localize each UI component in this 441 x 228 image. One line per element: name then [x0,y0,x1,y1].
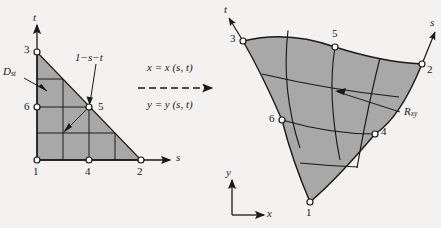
region-label-rxy: Rxy [404,106,417,118]
domain-label-dst-base: D [3,65,11,77]
xy-node-3[interactable] [240,38,246,44]
s-axis-label-right: s [430,17,434,28]
figure-svg [0,0,441,228]
domain-label-dst: Dst [3,66,16,78]
y-axis-label-right: y [226,167,231,178]
st-node-4[interactable] [86,157,92,163]
st-node-3[interactable] [34,49,40,55]
xy-node-label-6: 6 [269,113,275,124]
st-node-label-2: 2 [137,166,143,177]
region-label-rxy-base: R [404,105,411,117]
t-axis-label-left: t [33,12,36,23]
st-node-label-1: 1 [33,166,39,177]
st-node-label-6: 6 [24,101,30,112]
xy-node-5[interactable] [332,44,338,50]
mapping-equation-y: y = y (s, t) [147,99,193,110]
xy-node-label-4: 4 [381,126,387,137]
st-node-2[interactable] [138,157,144,163]
s-axis-label-left: s [176,152,180,163]
left-domain-group [24,25,170,163]
xy-node-6[interactable] [279,117,285,123]
st-node-5[interactable] [86,104,92,110]
xy-node-1[interactable] [307,199,313,205]
xy-node-2[interactable] [419,61,425,67]
xy-node-label-3: 3 [230,33,236,44]
st-node-1[interactable] [34,157,40,163]
figure-container: t s Dst 1−s−t 1 2 3 4 5 6 x = x (s, t) y… [0,0,441,228]
st-node-label-4: 4 [85,166,91,177]
one-minus-s-t-label: 1−s−t [75,52,103,63]
one-minus-s-t-leader [90,64,96,103]
region-label-rxy-sub: xy [411,109,418,118]
st-node-6[interactable] [34,104,40,110]
x-axis-label-right: x [267,208,272,219]
st-node-label-3: 3 [24,44,30,55]
xy-node-label-2: 2 [427,64,433,75]
s-axis-right [422,32,435,64]
xy-node-label-1: 1 [306,207,312,218]
xy-node-label-5: 5 [332,28,338,39]
xy-axis-indicator [232,180,264,215]
t-axis-label-right: t [224,4,227,15]
mapping-equation-x: x = x (s, t) [147,62,193,73]
domain-label-dst-sub: st [11,69,16,78]
st-node-label-5: 5 [98,101,104,112]
xy-node-4[interactable] [372,131,378,137]
